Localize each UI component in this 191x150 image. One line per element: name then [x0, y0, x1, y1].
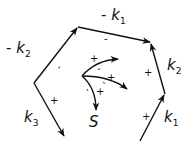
label-right-lower: k1	[164, 108, 178, 128]
label-center-s: S	[89, 113, 99, 131]
diagram-canvas: - k2 k3 - k1 k2 k1 S - + - + + + - + - +…	[0, 0, 191, 150]
sign-center-up-plus: +	[90, 53, 98, 64]
svg-text:S: S	[89, 113, 99, 131]
label-right-upper: k2	[167, 56, 181, 76]
svg-text:k3: k3	[24, 108, 38, 128]
svg-text:- k2: - k2	[6, 39, 31, 59]
svg-text:k2: k2	[167, 56, 181, 76]
right-upper-edge-arrow	[151, 44, 165, 94]
sign-left-lower-edge: +	[50, 95, 58, 106]
sign-right-upper-edge: +	[144, 67, 152, 78]
top-edge-arrow	[78, 27, 150, 42]
svg-text:k1: k1	[164, 108, 178, 128]
sign-top-edge: -	[104, 33, 108, 44]
sign-center-down-plus: +	[96, 86, 104, 97]
center-arrow-down	[82, 76, 96, 110]
left-lower-edge-arrow	[34, 83, 64, 136]
sign-center-up-minus: -	[95, 63, 102, 73]
left-upper-edge-arrow	[34, 28, 77, 83]
sign-center-down-minus: -	[83, 86, 94, 92]
label-left-lower: k3	[24, 108, 38, 128]
sign-right-lower-edge: +	[142, 111, 150, 122]
svg-text:- k1: - k1	[101, 6, 126, 26]
label-top: - k1	[101, 6, 126, 26]
label-left-upper: - k2	[6, 39, 31, 59]
sign-left-upper-edge: -	[54, 63, 64, 71]
sign-center-right-plus: +	[107, 72, 115, 83]
